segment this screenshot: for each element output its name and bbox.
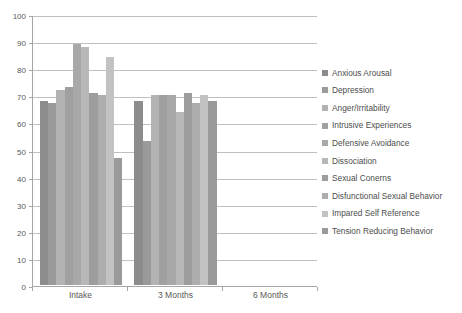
legend-swatch-icon: [322, 70, 328, 76]
legend-item-label: Intrusive Experiences: [332, 121, 411, 129]
bar-fill: [114, 158, 122, 285]
y-axis-tick-label: 40: [0, 174, 26, 183]
y-axis-tick: [29, 233, 33, 234]
legend-item[interactable]: Tension Reducing Behavior: [322, 222, 462, 240]
bar-fill: [167, 95, 175, 285]
bar-fill: [151, 95, 159, 285]
bar-fill: [184, 93, 192, 285]
bar-fill: [98, 95, 106, 285]
x-axis-labels: Intake3 Months6 Months: [33, 290, 318, 300]
bar-chart: 0102030405060708090100 Intake3 Months6 M…: [0, 0, 462, 313]
bar-fill: [134, 101, 142, 285]
bar-fill: [192, 103, 200, 285]
bar-fill: [200, 95, 208, 285]
legend-item[interactable]: Anger/Irritability: [322, 99, 462, 117]
y-axis-tick-label: 50: [0, 147, 26, 156]
y-axis-tick-label: 80: [0, 66, 26, 75]
legend-item[interactable]: Dissociation: [322, 152, 462, 170]
legend-swatch-icon: [322, 87, 328, 93]
plot-area: [32, 16, 317, 287]
bar-fill: [48, 103, 56, 285]
legend-item[interactable]: Impared Self Reference: [322, 205, 462, 223]
bar-fill: [208, 101, 216, 285]
y-axis-tick: [29, 260, 33, 261]
x-axis-tick-label: 3 Months: [128, 290, 223, 300]
bar-fill: [65, 87, 73, 285]
y-axis-tick-label: 90: [0, 39, 26, 48]
legend-item[interactable]: Sexual Conerns: [322, 170, 462, 188]
y-axis-tick-label: 0: [0, 283, 26, 292]
legend-item[interactable]: Disfunctional Sexual Behavior: [322, 187, 462, 205]
y-axis-tick-label: 100: [0, 12, 26, 21]
legend-swatch-icon: [322, 193, 328, 199]
y-axis-tick: [29, 152, 33, 153]
bar-group: [223, 16, 317, 285]
y-axis-tick-label: 70: [0, 93, 26, 102]
y-axis-tick-label: 20: [0, 228, 26, 237]
bar-fill: [89, 93, 97, 285]
y-axis-tick-label: 30: [0, 201, 26, 210]
bar-fill: [81, 47, 89, 285]
x-axis-tick-label: Intake: [33, 290, 128, 300]
legend-item-label: Defensive Avoidance: [332, 139, 409, 147]
y-axis-tick: [29, 179, 33, 180]
bar-fill: [143, 141, 151, 285]
x-axis-tick: [317, 287, 318, 291]
legend-item-label: Tension Reducing Behavior: [332, 227, 433, 235]
legend-item-label: Dissociation: [332, 157, 377, 165]
legend-swatch-icon: [322, 158, 328, 164]
y-axis-tick-label: 60: [0, 120, 26, 129]
x-axis-tick: [222, 287, 223, 291]
legend-swatch-icon: [322, 228, 328, 234]
legend-item-label: Anger/Irritability: [332, 104, 390, 112]
y-axis-tick: [29, 16, 33, 17]
legend-swatch-icon: [322, 211, 328, 217]
legend-item[interactable]: Anxious Arousal: [322, 64, 462, 82]
bar-fill: [159, 95, 167, 285]
y-axis-tick: [29, 206, 33, 207]
x-axis-tick: [32, 287, 33, 291]
legend-item-label: Depression: [332, 86, 374, 94]
bar-fill: [56, 90, 64, 285]
y-axis-tick: [29, 124, 33, 125]
legend-swatch-icon: [322, 123, 328, 129]
chart-legend: Anxious ArousalDepressionAnger/Irritabil…: [322, 64, 462, 240]
legend-item[interactable]: Depression: [322, 82, 462, 100]
bar-group: [34, 16, 128, 285]
bar-group: [128, 16, 222, 285]
legend-swatch-icon: [322, 140, 328, 146]
legend-item-label: Impared Self Reference: [332, 209, 420, 217]
y-axis-tick: [29, 70, 33, 71]
y-axis-tick-label: 10: [0, 255, 26, 264]
legend-item-label: Anxious Arousal: [332, 69, 392, 77]
bar-groups: [34, 16, 317, 285]
bar-fill: [176, 112, 184, 285]
legend-item-label: Sexual Conerns: [332, 174, 391, 182]
bar-fill: [106, 57, 114, 285]
x-axis-tick-label: 6 Months: [223, 290, 318, 300]
legend-item[interactable]: Defensive Avoidance: [322, 134, 462, 152]
bar-fill: [73, 44, 81, 285]
y-axis-tick: [29, 97, 33, 98]
bar-fill: [40, 101, 48, 285]
y-axis-tick: [29, 43, 33, 44]
legend-swatch-icon: [322, 105, 328, 111]
legend-item-label: Disfunctional Sexual Behavior: [332, 192, 442, 200]
legend-swatch-icon: [322, 175, 328, 181]
legend-item[interactable]: Intrusive Experiences: [322, 117, 462, 135]
x-axis-tick: [127, 287, 128, 291]
